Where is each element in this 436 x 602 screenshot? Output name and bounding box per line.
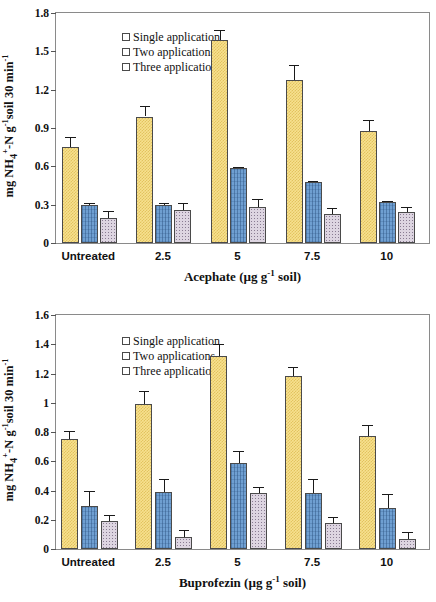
y-axis-tick [51, 243, 56, 244]
error-bar [313, 479, 314, 494]
bar [211, 40, 228, 243]
y-axis-tick-label: 0.9 [35, 122, 49, 134]
bar [155, 205, 172, 243]
legend-swatch-icon [122, 48, 130, 56]
y-axis-tick [51, 128, 56, 129]
y-axis-title-text-a: mg NH4+-N g-1soil 30 min-1 [2, 55, 16, 198]
x-axis-category-label: 2.5 [155, 250, 171, 262]
y-axis-tick [51, 549, 56, 550]
error-bar [89, 491, 90, 506]
error-bar-cap [252, 199, 263, 200]
y-axis-tick-label: 0.2 [35, 514, 49, 526]
bar [360, 131, 377, 243]
legend-item[interactable]: Two applications [122, 349, 222, 363]
error-bar-cap [214, 30, 225, 31]
error-bar-cap [308, 181, 319, 182]
y-axis-tick-label: 1.2 [35, 368, 49, 380]
bar [61, 439, 78, 549]
y-axis-tick-label: 1.8 [35, 7, 49, 19]
error-bar [258, 199, 259, 207]
x-axis-category-label: 5 [234, 250, 240, 262]
error-bar [69, 431, 70, 440]
error-bar-cap [362, 425, 373, 426]
legend-item[interactable]: Single application [122, 334, 222, 348]
plot-area-a: a Single applicationTwo applicationsThre… [55, 12, 430, 244]
legend-item[interactable]: Three applications [122, 60, 222, 74]
y-axis-tick-label: 0.4 [35, 485, 49, 497]
bar [81, 506, 98, 549]
error-bar-cap [363, 120, 374, 121]
figure-root: mg NH4+-N g-1soil 30 min-1 a Single appl… [0, 0, 436, 602]
x-axis-category-label: 7.5 [304, 556, 320, 568]
bar [379, 202, 396, 243]
legend-swatch-icon [122, 352, 130, 360]
bar [230, 463, 247, 549]
bar [174, 210, 191, 243]
bar [305, 493, 322, 549]
error-bar-cap [233, 167, 244, 168]
y-axis-tick [51, 13, 56, 14]
bar [101, 521, 118, 549]
y-axis-tick-label: 1.2 [35, 84, 49, 96]
legend-item[interactable]: Two applications [122, 45, 222, 59]
y-axis-tick-label: 0.6 [35, 455, 49, 467]
error-bar [369, 120, 370, 132]
error-bar-cap [139, 391, 150, 392]
y-axis-tick [51, 344, 56, 345]
legend-item[interactable]: Three applications [122, 364, 222, 378]
y-axis-tick-label: 1 [43, 397, 49, 409]
error-bar [164, 479, 165, 492]
legend-label: Single application [133, 31, 220, 44]
legend-swatch-icon [122, 367, 130, 375]
legend-label: Single application [133, 335, 220, 348]
bar [250, 493, 267, 549]
legend-b: Single applicationTwo applicationsThree … [122, 334, 222, 378]
error-bar [145, 106, 146, 116]
error-bar [220, 30, 221, 40]
y-axis-tick-label: 0 [43, 543, 49, 555]
error-bar [294, 65, 295, 80]
y-axis-tick-label: 1.6 [35, 309, 49, 321]
error-bar-cap [65, 137, 76, 138]
y-axis-tick [51, 205, 56, 206]
error-bar-cap [178, 203, 189, 204]
bar [155, 492, 172, 549]
legend-label: Three applications [133, 365, 222, 378]
bar [305, 182, 322, 243]
bar [100, 218, 117, 243]
bar [285, 376, 302, 549]
error-bar [239, 451, 240, 463]
bar [249, 207, 266, 243]
legend-a: Single applicationTwo applicationsThree … [122, 30, 222, 74]
y-axis-tick [51, 166, 56, 167]
error-bar-cap [382, 494, 393, 495]
error-bar-cap [103, 211, 114, 212]
bar [398, 212, 415, 243]
y-axis-tick [51, 461, 56, 462]
x-axis-category-label: 10 [380, 556, 393, 568]
error-bar-cap [253, 487, 264, 488]
error-bar [293, 367, 294, 376]
bar [325, 523, 342, 549]
y-axis-tick [51, 520, 56, 521]
error-bar-cap [64, 431, 75, 432]
error-bar-cap [288, 367, 299, 368]
bar [359, 436, 376, 549]
error-bar-cap [159, 479, 170, 480]
bar [210, 356, 227, 549]
bar [175, 537, 192, 549]
x-axis-title-text-a: Acephate (µg g-1 soil) [184, 269, 301, 284]
legend-item[interactable]: Single application [122, 30, 222, 44]
y-axis-title-b: mg NH4+-N g-1soil 30 min-1 [0, 310, 18, 550]
y-axis-tick-label: 1.5 [35, 45, 49, 57]
legend-label: Two applications [133, 46, 215, 59]
y-axis-tick-label: 0.3 [35, 199, 49, 211]
bar [136, 117, 153, 244]
x-axis-category-label: 7.5 [304, 250, 320, 262]
y-axis-title-text-b: mg NH4+-N g-1soil 30 min-1 [2, 359, 16, 502]
y-axis-tick [51, 51, 56, 52]
chart-panel-b: mg NH4+-N g-1soil 30 min-1 b Single appl… [0, 300, 436, 602]
error-bar [368, 425, 369, 435]
error-bar-cap [179, 530, 190, 531]
error-bar-cap [84, 203, 95, 204]
